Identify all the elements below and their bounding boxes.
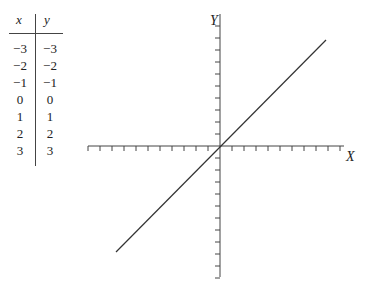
line-graph: Y X — [0, 0, 368, 290]
x-axis-ticks — [88, 146, 340, 151]
x-axis-label: X — [345, 149, 355, 164]
